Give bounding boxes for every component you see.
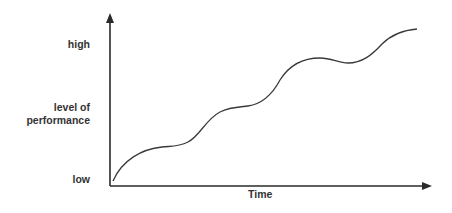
performance-chart: high level of performance low Time: [0, 0, 452, 213]
performance-curve: [113, 29, 417, 181]
y-axis-arrow-icon: [106, 13, 114, 23]
y-axis-title-line1: level of: [26, 101, 90, 114]
x-axis-arrow-icon: [422, 182, 432, 190]
y-label-low: low: [73, 173, 91, 186]
x-axis-title: Time: [248, 188, 272, 200]
y-axis-title: level of performance: [26, 101, 90, 127]
y-axis-title-line2: performance: [26, 114, 90, 127]
y-label-high: high: [68, 38, 90, 51]
